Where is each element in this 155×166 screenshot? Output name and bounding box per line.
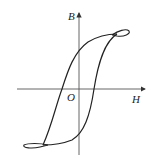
saturation-loop-upper <box>112 30 129 36</box>
hysteresis-diagram: B H O <box>0 0 155 166</box>
h-axis-label: H <box>131 93 141 105</box>
origin-label: O <box>67 91 75 103</box>
saturation-loop-lower <box>24 144 48 149</box>
hysteresis-upper-branch <box>43 34 117 145</box>
hysteresis-lower-branch <box>43 34 117 145</box>
b-axis-label: B <box>68 10 75 22</box>
